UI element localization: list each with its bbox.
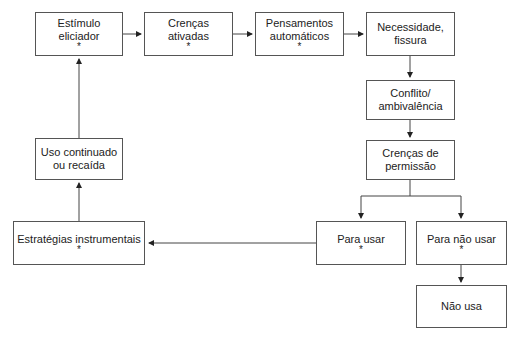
asterisk-marker: * bbox=[187, 43, 191, 51]
asterisk-marker: * bbox=[298, 43, 302, 51]
node-label-line2: ambivalência bbox=[378, 100, 442, 113]
node-label-line1: Estímulo bbox=[58, 17, 101, 30]
node-label-line2: ou recaída bbox=[53, 159, 105, 172]
node-estimulo-eliciador: Estímulo eliciador * bbox=[35, 12, 123, 56]
node-conflito-ambivalencia: Conflito/ ambivalência bbox=[366, 80, 455, 120]
node-label-line1: Necessidade, bbox=[377, 21, 444, 34]
node-label-line2: fissura bbox=[394, 34, 426, 47]
node-label-line1: Crenças bbox=[168, 17, 209, 30]
asterisk-marker: * bbox=[460, 246, 464, 254]
node-crencas-de-permissao: Crenças de permissão bbox=[366, 140, 455, 180]
node-necessidade-fissura: Necessidade, fissura bbox=[366, 12, 455, 56]
node-label-line1: Pensamentos bbox=[266, 17, 333, 30]
node-uso-continuado: Uso continuado ou recaída bbox=[35, 138, 123, 180]
node-label-line1: Conflito/ bbox=[390, 87, 430, 100]
asterisk-marker: * bbox=[359, 246, 363, 254]
node-label-line1: Uso continuado bbox=[41, 146, 117, 159]
node-label-line1: Não usa bbox=[441, 300, 482, 313]
node-nao-usa: Não usa bbox=[416, 285, 507, 328]
node-pensamentos-automaticos: Pensamentos automáticos * bbox=[255, 12, 344, 56]
node-label-line2: permissão bbox=[385, 160, 436, 173]
node-crencas-ativadas: Crenças ativadas * bbox=[144, 12, 233, 56]
node-para-usar: Para usar * bbox=[316, 221, 406, 265]
asterisk-marker: * bbox=[77, 246, 81, 254]
node-estrategias-instrumentais: Estratégias instrumentais * bbox=[13, 221, 145, 265]
asterisk-marker: * bbox=[77, 43, 81, 51]
node-label-line1: Crenças de bbox=[382, 147, 438, 160]
node-para-nao-usar: Para não usar * bbox=[416, 221, 507, 265]
